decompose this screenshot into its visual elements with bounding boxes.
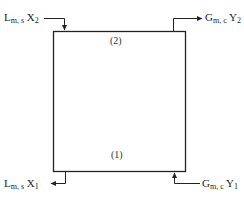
gas-outlet-arrow (174, 19, 203, 32)
liquid-inlet-arrow (44, 19, 65, 31)
gas-inlet-arrow (175, 173, 201, 184)
stream-subscript: m, s (11, 16, 24, 25)
stream-subscript: m, c (213, 16, 227, 25)
stream-subscript: m, c (210, 182, 224, 191)
gas-inlet-label: Gm, c Y1 (202, 177, 238, 189)
stage-label-bottom: (1) (111, 149, 123, 160)
liquid-inlet-label: Lm, s X2 (4, 11, 39, 23)
composition-symbol: X (27, 177, 35, 189)
gas-outlet-label: Gm, c Y2 (205, 11, 241, 23)
composition-symbol: Y (229, 11, 237, 23)
composition-subscript: 1 (234, 182, 238, 191)
stream-symbol: G (205, 11, 213, 23)
composition-symbol: X (27, 11, 35, 23)
liquid-outlet-label: Lm, s X1 (4, 177, 39, 189)
composition-subscript: 2 (35, 16, 39, 25)
stream-symbol: L (4, 11, 11, 23)
liquid-outlet-arrow (51, 172, 66, 184)
stream-subscript: m, s (11, 182, 24, 191)
diagram-canvas (0, 0, 244, 197)
composition-symbol: Y (226, 177, 234, 189)
composition-subscript: 1 (35, 182, 39, 191)
composition-subscript: 2 (237, 16, 241, 25)
stream-symbol: L (4, 177, 11, 189)
stream-symbol: G (202, 177, 210, 189)
stage-label-top: (2) (110, 35, 122, 46)
